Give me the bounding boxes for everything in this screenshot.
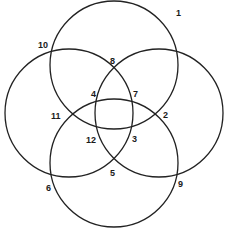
intersection-label-8: 8 bbox=[110, 56, 115, 66]
circles-group bbox=[5, 1, 223, 227]
intersection-label-7: 7 bbox=[133, 89, 138, 99]
intersection-label-5: 5 bbox=[110, 168, 115, 178]
intersection-label-1: 1 bbox=[176, 8, 181, 18]
intersection-label-11: 11 bbox=[51, 111, 61, 121]
intersection-label-4: 4 bbox=[91, 89, 96, 99]
intersection-label-12: 12 bbox=[86, 135, 96, 145]
labels-group: 123456789101112 bbox=[38, 8, 183, 193]
intersection-label-10: 10 bbox=[38, 40, 48, 50]
intersection-label-2: 2 bbox=[163, 110, 168, 120]
circle-bottom bbox=[50, 99, 178, 227]
intersection-label-3: 3 bbox=[132, 134, 137, 144]
circle-right bbox=[95, 49, 223, 177]
venn-diagram: 123456789101112 bbox=[0, 0, 228, 229]
intersection-label-6: 6 bbox=[46, 183, 51, 193]
intersection-label-9: 9 bbox=[178, 179, 183, 189]
